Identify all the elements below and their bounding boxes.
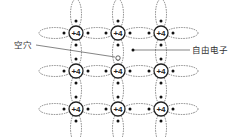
valence-electron xyxy=(75,20,78,23)
covalent-bond-horizontal xyxy=(39,66,71,77)
valence-electron xyxy=(172,32,175,35)
valence-electron xyxy=(117,120,120,123)
valence-electron xyxy=(129,70,132,73)
valence-electron xyxy=(129,108,132,111)
atom-core: +4 xyxy=(111,102,125,116)
covalent-bond-vertical xyxy=(113,37,124,67)
covalent-bond-vertical xyxy=(71,37,82,67)
valence-electron xyxy=(160,44,163,47)
hole-label: 空穴 xyxy=(14,40,32,50)
atom-core: +4 xyxy=(154,102,168,116)
atom-charge-label: +4 xyxy=(71,105,81,114)
hole-marker xyxy=(116,56,120,60)
atom-charge-label: +4 xyxy=(71,67,81,76)
covalent-bond-horizontal xyxy=(166,104,198,115)
atom-charge-label: +4 xyxy=(113,29,123,38)
valence-electron xyxy=(172,108,175,111)
atom-charge-label: +4 xyxy=(156,29,166,38)
atom-core: +4 xyxy=(69,102,83,116)
atom-core: +4 xyxy=(69,64,83,78)
valence-electron xyxy=(117,20,120,23)
valence-electron xyxy=(75,44,78,47)
valence-electron xyxy=(75,96,78,99)
covalent-bond-vertical xyxy=(156,37,167,67)
covalent-bond-horizontal xyxy=(39,104,71,115)
atom-charge-label: +4 xyxy=(113,105,123,114)
valence-electron xyxy=(63,108,66,111)
valence-electron xyxy=(105,108,108,111)
hole-leader-line xyxy=(36,45,115,57)
covalent-bond-vertical xyxy=(156,0,167,29)
valence-electron xyxy=(172,70,175,73)
atoms: +4+4+4+4+4+4+4+4+4 xyxy=(69,26,168,116)
valence-electron xyxy=(105,32,108,35)
valence-electron xyxy=(75,58,78,61)
valence-electron xyxy=(160,120,163,123)
valence-electron xyxy=(160,20,163,23)
valence-electron xyxy=(160,82,163,85)
valence-electron xyxy=(63,70,66,73)
atom-core: +4 xyxy=(69,26,83,40)
covalent-bond-horizontal xyxy=(81,104,113,115)
valence-electron xyxy=(75,120,78,123)
valence-electron xyxy=(148,32,151,35)
silicon-crystal-lattice-diagram: +4+4+4+4+4+4+4+4+4 空穴 自由电子 xyxy=(0,0,240,137)
covalent-bond-horizontal xyxy=(124,28,156,39)
covalent-bond-vertical xyxy=(71,0,82,29)
covalent-bond-horizontal xyxy=(124,104,156,115)
covalent-bond-vertical xyxy=(113,75,124,105)
covalent-bond-horizontal xyxy=(166,66,198,77)
valence-electron xyxy=(117,96,120,99)
covalent-bond-horizontal xyxy=(166,28,198,39)
atom-core: +4 xyxy=(111,64,125,78)
covalent-bond-horizontal xyxy=(124,66,156,77)
valence-electron xyxy=(87,108,90,111)
covalent-bond-horizontal xyxy=(39,28,71,39)
atom-charge-label: +4 xyxy=(71,29,81,38)
valence-electron xyxy=(129,32,132,35)
atom-charge-label: +4 xyxy=(113,67,123,76)
free-electron-label: 自由电子 xyxy=(192,45,228,55)
covalent-bond-vertical xyxy=(113,0,124,29)
valence-electron xyxy=(75,82,78,85)
covalent-bond-vertical xyxy=(156,75,167,105)
covalent-bond-horizontal xyxy=(81,66,113,77)
valence-electron xyxy=(160,96,163,99)
atom-charge-label: +4 xyxy=(156,67,166,76)
valence-electron xyxy=(148,108,151,111)
valence-electron xyxy=(87,32,90,35)
atom-core: +4 xyxy=(111,26,125,40)
valence-electron xyxy=(160,58,163,61)
valence-electron xyxy=(117,82,120,85)
atom-core: +4 xyxy=(154,64,168,78)
valence-electron xyxy=(117,44,120,47)
valence-electron xyxy=(148,70,151,73)
covalent-bond-horizontal xyxy=(81,28,113,39)
atom-charge-label: +4 xyxy=(156,105,166,114)
valence-electron xyxy=(87,70,90,73)
valence-electron xyxy=(105,70,108,73)
atom-core: +4 xyxy=(154,26,168,40)
covalent-bond-vertical xyxy=(71,75,82,105)
valence-electron xyxy=(63,32,66,35)
